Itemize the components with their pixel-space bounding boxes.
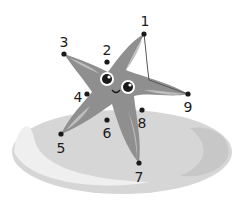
dot-8: [139, 107, 144, 112]
left-eye: [100, 72, 114, 86]
dot-3: [61, 51, 66, 56]
right-eye: [121, 80, 135, 94]
dot-2: [104, 59, 109, 64]
dot-label-5: 5: [57, 140, 66, 156]
dot-label-1: 1: [141, 13, 150, 29]
dot-5: [58, 131, 63, 136]
dot-label-9: 9: [184, 99, 193, 115]
dot-label-4: 4: [74, 89, 83, 105]
dot-7: [136, 160, 141, 165]
dot-6: [104, 117, 109, 122]
dot-label-7: 7: [135, 169, 144, 185]
dot-label-8: 8: [138, 115, 147, 131]
dot-label-3: 3: [60, 34, 69, 50]
dot-label-6: 6: [103, 125, 112, 141]
dot-label-2: 2: [103, 42, 112, 58]
dot-4: [84, 91, 89, 96]
dot-9: [185, 91, 190, 96]
dot-1: [141, 31, 146, 36]
illustration: 123456789: [0, 0, 236, 204]
connect-the-dots-worksheet: 123456789: [0, 0, 236, 204]
